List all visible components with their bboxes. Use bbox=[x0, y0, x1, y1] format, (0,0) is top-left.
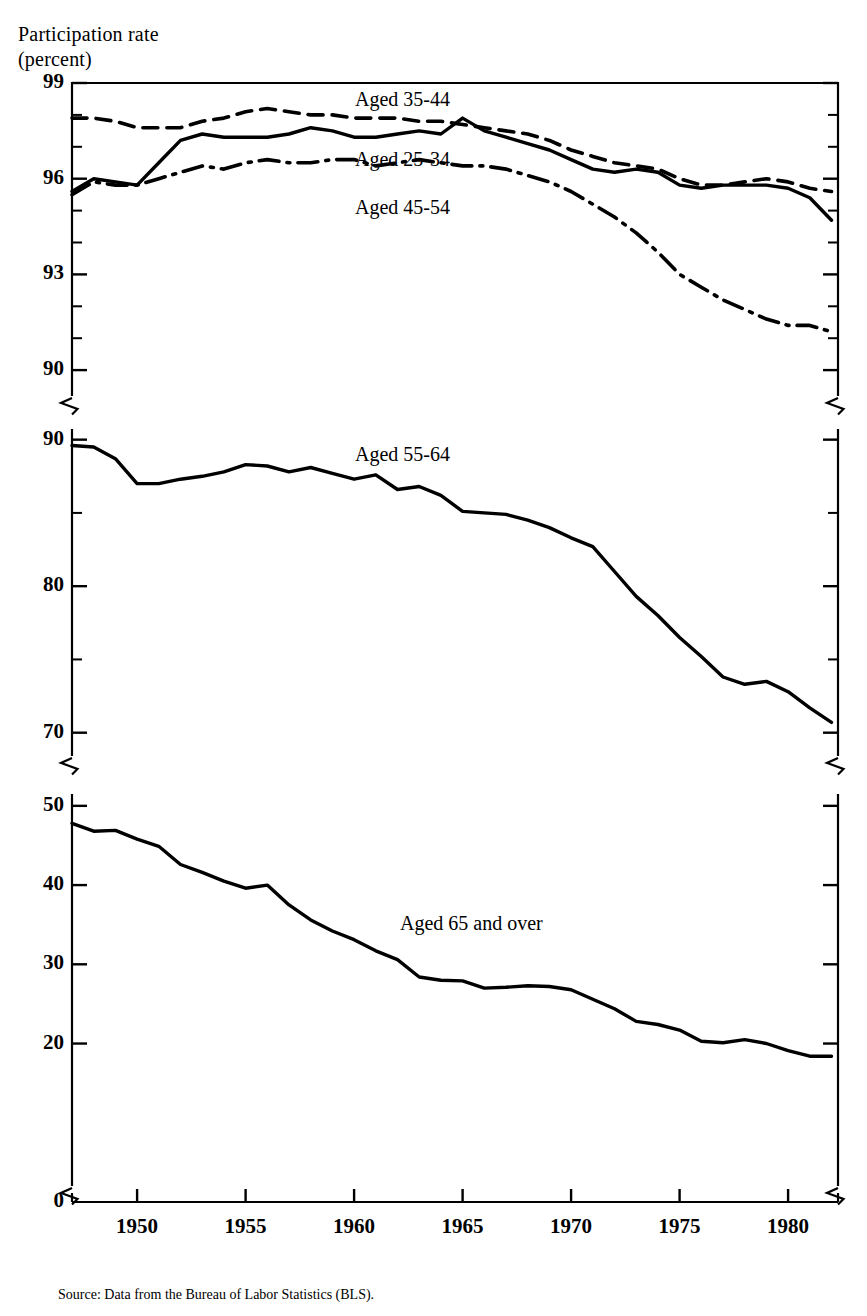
series-label-aged-45-54: Aged 45-54 bbox=[355, 196, 450, 219]
x-tick-label: 1955 bbox=[206, 1214, 286, 1239]
source-note: Source: Data from the Bureau of Labor St… bbox=[58, 1287, 374, 1303]
y-tick-label: 96 bbox=[18, 165, 64, 190]
y-tick-label: 70 bbox=[18, 719, 64, 744]
chart-root: Participation rate (percent) 99 96 93 90… bbox=[0, 0, 867, 1316]
y-tick-label: 80 bbox=[18, 572, 64, 597]
series-line-aged-55-64 bbox=[72, 446, 832, 723]
series-label-aged-35-44: Aged 35-44 bbox=[355, 88, 450, 111]
y-tick-label: 93 bbox=[18, 260, 64, 285]
series-label-aged-65-and-over: Aged 65 and over bbox=[400, 912, 543, 935]
y-tick-label-zero: 0 bbox=[18, 1188, 64, 1213]
y-tick-label: 30 bbox=[18, 950, 64, 975]
x-tick-label: 1960 bbox=[314, 1214, 394, 1239]
y-tick-label: 90 bbox=[18, 426, 64, 451]
series-label-aged-25-34: Aged 25-34 bbox=[355, 148, 450, 171]
y-tick-label: 90 bbox=[18, 356, 64, 381]
series-label-aged-55-64: Aged 55-64 bbox=[355, 443, 450, 466]
y-tick-label: 50 bbox=[18, 792, 64, 817]
y-tick-label: 20 bbox=[18, 1030, 64, 1055]
x-tick-label: 1975 bbox=[640, 1214, 720, 1239]
x-tick-label: 1970 bbox=[531, 1214, 611, 1239]
series-line-aged-35-44 bbox=[72, 109, 832, 192]
x-tick-label: 1965 bbox=[423, 1214, 503, 1239]
x-tick-label: 1980 bbox=[748, 1214, 828, 1239]
y-tick-label: 99 bbox=[18, 69, 64, 94]
x-tick-label: 1950 bbox=[97, 1214, 177, 1239]
y-tick-label: 40 bbox=[18, 871, 64, 896]
series-line-aged-65-and-over bbox=[72, 823, 832, 1056]
